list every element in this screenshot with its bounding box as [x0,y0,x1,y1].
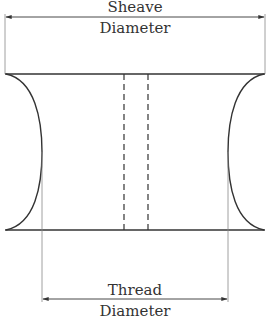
sheave-label-line2: Diameter [100,19,172,37]
thread-label-line1: Thread [108,281,163,299]
right-groove-curve [228,74,264,230]
sheave-label-line1: Sheave [107,0,162,16]
thread-label-line2: Diameter [100,302,172,320]
sheave-body [5,74,265,230]
left-groove-curve [6,74,42,230]
thread-extension-lines [42,152,228,302]
sheave-diagram: Sheave Diameter Thread Diameter [0,0,271,320]
